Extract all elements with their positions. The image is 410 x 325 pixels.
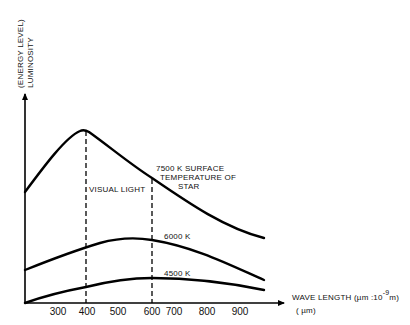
y-axis-label-energy: (ENERGY LEVEL) (16, 19, 25, 88)
x-axis-label-main: WAVE LENGTH (µm :10 (292, 293, 383, 302)
x-tick-700: 700 (166, 306, 183, 317)
x-tick-800: 800 (199, 306, 216, 317)
star-label-line2: TEMPERATURE OF (160, 173, 236, 182)
x-tick-600: 600 (144, 306, 161, 317)
x-axis-label-exponent: -9 (383, 289, 390, 296)
blackbody-chart: (ENERGY LEVEL) LUMINOSITY VISUAL LIGHT 7… (0, 0, 410, 325)
x-axis-label-unit: m) (389, 293, 399, 302)
star-label-line3: STAR (178, 182, 200, 191)
label-4500k: 4500 K (164, 269, 191, 278)
x-tick-400: 400 (79, 306, 96, 317)
visual-light-label: VISUAL LIGHT (89, 185, 145, 194)
x-tick-500: 500 (110, 306, 127, 317)
star-label-line1: 7500 K SURFACE (156, 164, 224, 173)
x-axis-label: WAVE LENGTH (µm :10-9m) (292, 289, 399, 302)
x-tick-900: 900 (232, 306, 249, 317)
y-axis-label-luminosity: LUMINOSITY (26, 37, 35, 88)
curve-6000k (25, 238, 264, 280)
curve-4500k (25, 278, 264, 303)
label-6000k: 6000 K (164, 232, 191, 241)
x-axis-unit-label: ( µm) (296, 306, 316, 315)
x-tick-300: 300 (50, 306, 67, 317)
